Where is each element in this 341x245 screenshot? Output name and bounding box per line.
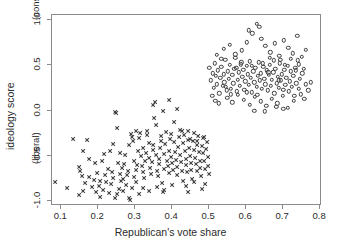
data-point-circle <box>231 81 235 85</box>
data-point-cross <box>93 161 97 165</box>
data-point-cross <box>103 173 107 177</box>
data-point-cross <box>110 170 114 174</box>
data-point-circle <box>302 96 306 100</box>
data-point-cross <box>134 168 138 172</box>
data-point-cross <box>109 182 113 186</box>
data-point-circle <box>214 53 218 57</box>
data-point-cross <box>188 137 192 141</box>
data-point-cross <box>87 157 91 161</box>
data-point-circle <box>290 85 294 89</box>
data-point-cross <box>201 151 205 155</box>
data-point-circle <box>278 57 282 61</box>
scatter-plot-figure: 0.10.20.30.40.50.60.70.8-1.0-0.50.00.51.… <box>0 0 341 245</box>
data-point-cross <box>141 186 145 190</box>
data-point-circle <box>294 81 298 85</box>
data-point-circle <box>252 108 256 112</box>
data-point-cross <box>141 170 145 174</box>
y-axis-tick-label: -1.0 <box>32 192 42 208</box>
data-point-cross <box>200 187 204 191</box>
data-point-cross <box>126 169 130 173</box>
data-point-circle <box>268 50 272 54</box>
data-point-cross <box>90 185 94 189</box>
x-axis-tick-label: 0.2 <box>91 211 104 221</box>
data-point-cross <box>177 135 181 139</box>
y-axis-tick-label: 0.0 <box>32 103 42 116</box>
data-point-cross <box>137 192 141 196</box>
data-point-cross <box>195 139 199 143</box>
data-point-cross <box>53 180 57 184</box>
data-point-cross <box>206 155 210 159</box>
data-point-cross <box>187 146 191 150</box>
data-point-circle <box>283 83 287 87</box>
data-point-cross <box>155 169 159 173</box>
data-point-circle <box>241 67 245 71</box>
y-axis-tick <box>47 19 51 20</box>
data-point-cross <box>206 164 210 168</box>
plot-frame <box>51 14 321 205</box>
data-point-cross <box>71 137 75 141</box>
data-point-cross <box>204 147 208 151</box>
y-axis-high-end-label: (conservative) <box>30 0 41 20</box>
y-axis-tick <box>47 200 51 201</box>
data-point-cross <box>95 171 99 175</box>
data-point-cross <box>131 139 135 143</box>
data-point-cross <box>165 159 169 163</box>
data-point-circle <box>216 68 220 72</box>
data-point-cross <box>142 176 146 180</box>
data-point-cross <box>65 186 69 190</box>
data-point-circle <box>225 96 229 100</box>
data-point-cross <box>155 185 159 189</box>
data-point-circle <box>294 68 298 72</box>
data-point-circle <box>242 97 246 101</box>
data-point-cross <box>152 116 156 120</box>
data-point-cross <box>202 159 206 163</box>
data-point-circle <box>263 82 267 86</box>
data-point-cross <box>111 176 115 180</box>
data-point-circle <box>301 66 305 70</box>
data-point-cross <box>192 180 196 184</box>
data-point-circle <box>282 67 286 71</box>
y-axis-title: ideology score <box>4 82 16 150</box>
data-point-circle <box>309 80 313 84</box>
data-point-cross <box>138 131 142 135</box>
data-point-cross <box>180 169 184 173</box>
data-point-cross <box>202 135 206 139</box>
data-point-cross <box>170 161 174 165</box>
data-point-cross <box>98 195 102 199</box>
data-point-circle <box>271 70 275 74</box>
data-point-cross <box>193 156 197 160</box>
x-axis-tick-label: 0.4 <box>165 211 178 221</box>
data-point-cross <box>145 129 149 133</box>
data-point-cross <box>94 190 98 194</box>
data-point-cross <box>159 134 163 138</box>
data-point-cross <box>176 145 180 149</box>
data-point-cross <box>192 148 196 152</box>
data-point-circle <box>235 77 239 81</box>
x-axis-tick-label: 0.6 <box>239 211 252 221</box>
data-point-cross <box>196 134 200 138</box>
x-axis-tick-label: 0.1 <box>54 211 67 221</box>
data-point-circle <box>228 43 232 47</box>
data-point-cross <box>128 198 132 202</box>
data-point-circle <box>236 93 240 97</box>
data-point-cross <box>98 179 102 183</box>
data-point-circle <box>268 63 272 67</box>
data-point-circle <box>274 105 278 109</box>
data-point-circle <box>209 78 213 82</box>
data-point-circle <box>300 71 304 75</box>
data-point-cross <box>170 183 174 187</box>
data-point-circle <box>244 64 248 68</box>
data-point-cross <box>158 146 162 150</box>
data-point-cross <box>150 160 154 164</box>
data-point-cross <box>114 111 118 115</box>
data-point-cross <box>145 133 149 137</box>
data-point-circle <box>222 46 226 50</box>
data-point-cross <box>161 109 165 113</box>
data-point-cross <box>80 174 84 178</box>
data-point-cross <box>203 182 207 186</box>
data-point-cross <box>167 171 171 175</box>
data-point-cross <box>179 160 183 164</box>
data-point-circle <box>306 88 310 92</box>
data-point-cross <box>189 168 193 172</box>
data-point-cross <box>115 126 119 130</box>
